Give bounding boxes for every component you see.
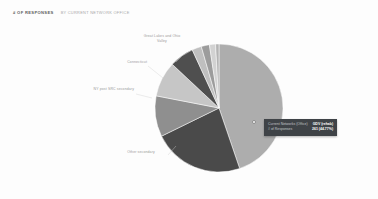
chart-area: Great Lakes and Ohio Valley Connecticut … [0, 22, 378, 199]
slice-label-great-lakes: Great Lakes and Ohio Valley [140, 34, 184, 43]
pie-chart[interactable] [0, 22, 378, 199]
tooltip-row-value: # of Responses 261 (44.77%) [268, 127, 333, 132]
slice-label-ny-metro: NY post SRC secondary [80, 87, 134, 92]
pie-chart-widget: # OF RESPONSES BY CURRENT NETWORK OFFICE… [0, 0, 378, 199]
tooltip-metric-value: 261 (44.77%) [312, 127, 333, 132]
page-title: # OF RESPONSES [13, 10, 54, 15]
chart-tooltip: Current Networks (Office) GDV (rehab) # … [264, 119, 337, 136]
slice-label-connecticut: Connecticut [103, 60, 147, 65]
slice-label-other: Other secondary [112, 150, 170, 155]
page-subtitle: BY CURRENT NETWORK OFFICE [61, 10, 130, 15]
pie-slice-group [155, 44, 283, 172]
widget-header: # OF RESPONSES BY CURRENT NETWORK OFFICE [13, 10, 130, 15]
tooltip-metric-key: # of Responses [268, 127, 292, 132]
